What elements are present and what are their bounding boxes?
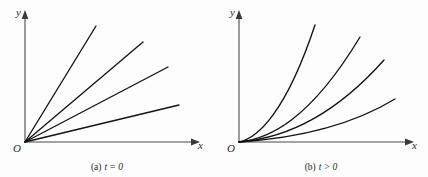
panel-b-y-axis-label: y xyxy=(230,7,235,18)
panel-b-x-axis-label: x xyxy=(412,140,417,151)
panel-a-caption: (a)t = 0 xyxy=(0,162,214,173)
panel-b-caption-tag: (b) xyxy=(305,162,316,172)
two-panel-figure: y x O (a)t = 0 y x O (b)t > 0 xyxy=(0,0,428,177)
panel-a-y-axis-label: y xyxy=(16,7,21,18)
panel-a-x-axis-label: x xyxy=(198,140,203,151)
curve-1-shallow xyxy=(239,99,395,142)
y-axis-arrowhead xyxy=(22,10,29,19)
ray-1-shallow xyxy=(25,105,179,142)
panel-a-origin-label: O xyxy=(13,143,21,154)
ray-4-steep xyxy=(25,26,96,142)
panel-b: y x O (b)t > 0 xyxy=(214,0,428,177)
ray-3 xyxy=(25,42,143,142)
panel-b-origin-label: O xyxy=(227,143,235,154)
panel-b-caption: (b)t > 0 xyxy=(214,162,428,173)
ray-2 xyxy=(25,67,168,142)
panel-a: y x O (a)t = 0 xyxy=(0,0,214,177)
panel-a-caption-expression: t = 0 xyxy=(104,162,123,172)
panel-a-caption-tag: (a) xyxy=(91,162,102,172)
panel-b-plot xyxy=(214,0,428,155)
panel-a-plot xyxy=(0,0,214,155)
panel-b-caption-expression: t > 0 xyxy=(319,162,338,172)
y-axis-arrowhead xyxy=(236,10,243,19)
